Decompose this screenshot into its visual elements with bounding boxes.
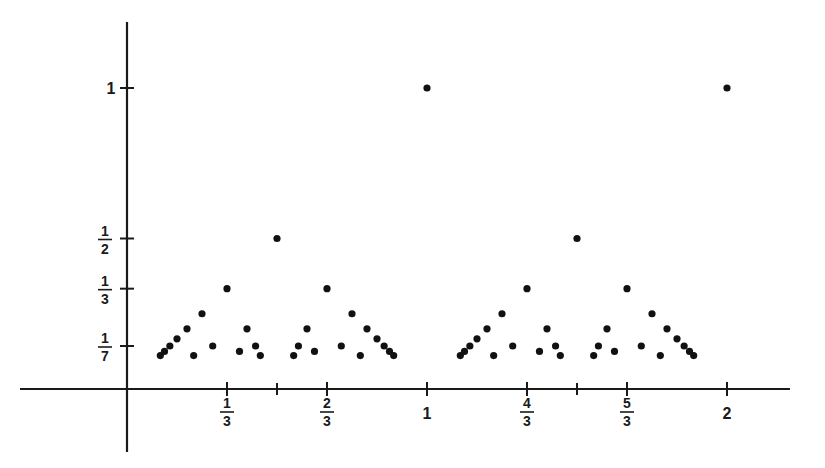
data-point — [490, 352, 497, 359]
data-point — [623, 285, 630, 292]
data-point — [536, 348, 543, 355]
data-point — [257, 352, 264, 359]
data-point — [509, 342, 516, 349]
data-point — [543, 325, 550, 332]
data-point — [273, 235, 280, 242]
x-tick-label-4-numerator: 4 — [523, 395, 531, 411]
plot-background — [0, 0, 825, 468]
data-point — [161, 348, 168, 355]
data-point — [690, 352, 697, 359]
x-tick-label-2-numerator: 2 — [323, 395, 331, 411]
data-point — [552, 342, 559, 349]
data-point — [183, 325, 190, 332]
data-point — [381, 342, 388, 349]
data-point — [173, 335, 180, 342]
x-tick-label-3: 1 — [423, 405, 432, 422]
data-point — [357, 352, 364, 359]
data-point — [303, 325, 310, 332]
data-point — [290, 352, 297, 359]
data-point — [198, 310, 205, 317]
y-tick-label-0-numerator: 1 — [101, 330, 109, 346]
data-point — [236, 348, 243, 355]
y-tick-label-2-numerator: 1 — [101, 223, 109, 239]
scatter-plot-canvas: 1323143532 1713121 — [0, 0, 825, 468]
data-point — [473, 335, 480, 342]
data-point — [673, 335, 680, 342]
data-point — [523, 285, 530, 292]
data-point — [557, 352, 564, 359]
x-tick-label-0-numerator: 1 — [223, 395, 231, 411]
data-point — [295, 342, 302, 349]
data-point — [166, 342, 173, 349]
data-point — [252, 342, 259, 349]
data-point — [723, 84, 730, 91]
data-point — [243, 325, 250, 332]
data-point — [323, 285, 330, 292]
data-point — [638, 342, 645, 349]
data-point — [209, 342, 216, 349]
data-point — [466, 342, 473, 349]
data-point — [363, 325, 370, 332]
data-point — [390, 352, 397, 359]
data-point — [223, 285, 230, 292]
y-tick-label-0-denominator: 7 — [101, 348, 109, 364]
data-point — [373, 335, 380, 342]
data-point — [603, 325, 610, 332]
data-point — [611, 348, 618, 355]
y-tick-label-1-numerator: 1 — [101, 273, 109, 289]
data-point — [663, 325, 670, 332]
data-point — [348, 310, 355, 317]
y-tick-label-2-denominator: 2 — [101, 241, 109, 257]
x-tick-label-2-denominator: 3 — [323, 413, 331, 429]
thomae-function-plot: 1323143532 1713121 — [0, 0, 825, 468]
data-point — [657, 352, 664, 359]
y-tick-label-1-denominator: 3 — [101, 291, 109, 307]
data-point — [461, 348, 468, 355]
data-point — [498, 310, 505, 317]
data-point — [190, 352, 197, 359]
data-point — [423, 84, 430, 91]
x-tick-label-0-denominator: 3 — [223, 413, 231, 429]
x-tick-label-6-denominator: 3 — [623, 413, 631, 429]
y-tick-label-3: 1 — [107, 80, 116, 97]
data-point — [338, 342, 345, 349]
x-tick-label-7: 2 — [723, 405, 732, 422]
data-point — [648, 310, 655, 317]
data-point — [681, 342, 688, 349]
data-point — [573, 235, 580, 242]
data-point — [595, 342, 602, 349]
x-tick-label-6-numerator: 5 — [623, 395, 631, 411]
data-point — [590, 352, 597, 359]
data-point — [483, 325, 490, 332]
x-tick-label-4-denominator: 3 — [523, 413, 531, 429]
data-point — [311, 348, 318, 355]
